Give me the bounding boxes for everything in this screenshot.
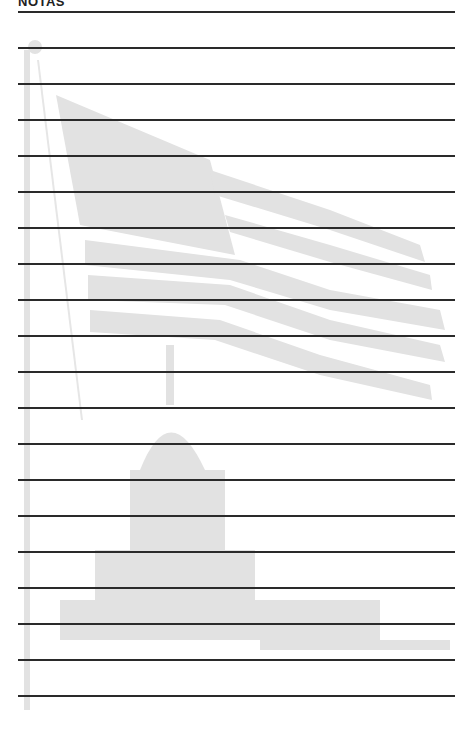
- flag-capitol-watermark-icon: [0, 0, 468, 731]
- writing-line: [18, 227, 455, 229]
- writing-line: [18, 371, 455, 373]
- writing-line: [18, 695, 455, 697]
- writing-line: [18, 443, 455, 445]
- writing-line: [18, 299, 455, 301]
- writing-line: [18, 83, 455, 85]
- writing-line: [18, 11, 455, 13]
- writing-line: [18, 191, 455, 193]
- writing-line: [18, 623, 455, 625]
- writing-line: [18, 119, 455, 121]
- writing-line: [18, 587, 455, 589]
- writing-line: [18, 551, 455, 553]
- writing-line: [18, 407, 455, 409]
- writing-line: [18, 335, 455, 337]
- writing-line: [18, 263, 455, 265]
- writing-line: [18, 155, 455, 157]
- writing-line: [18, 47, 455, 49]
- writing-line: [18, 515, 455, 517]
- writing-line: [18, 479, 455, 481]
- writing-line: [18, 659, 455, 661]
